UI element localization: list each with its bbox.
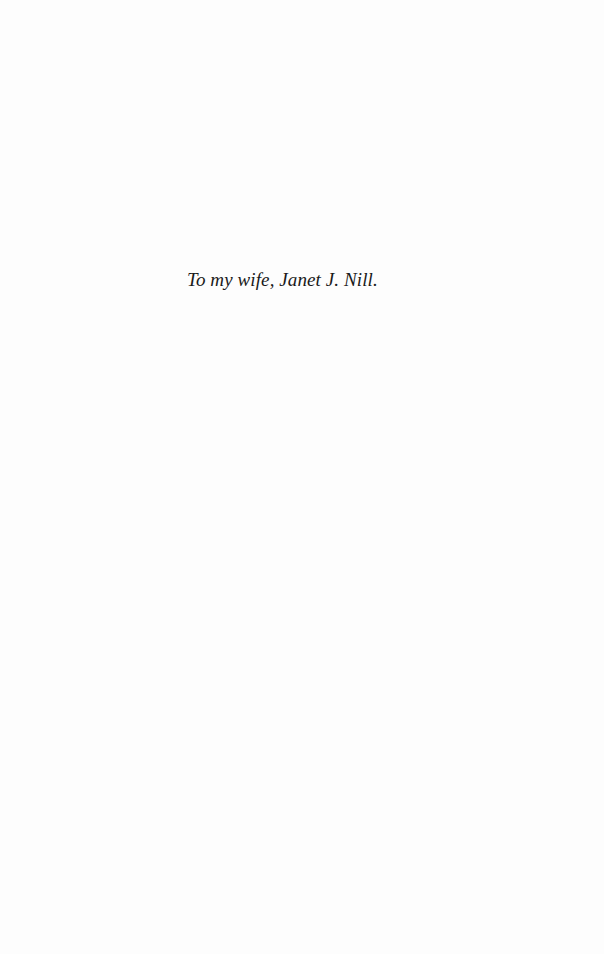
- dedication-text: To my wife, Janet J. Nill.: [187, 269, 378, 291]
- dedication-page: To my wife, Janet J. Nill.: [0, 0, 604, 954]
